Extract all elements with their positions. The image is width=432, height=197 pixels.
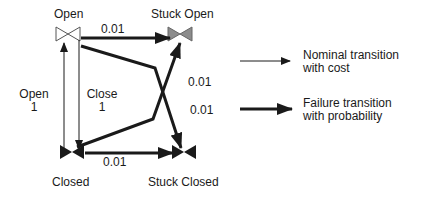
legend-failure-line2: with probability xyxy=(303,110,392,123)
state-label-open: Open xyxy=(54,8,83,21)
cost-open-to-closed-value: 1 xyxy=(84,101,120,114)
legend-nominal-line2: with cost xyxy=(303,62,399,75)
cost-closed-to-open-label: Open 1 xyxy=(18,88,50,114)
valve-stuck-open-icon xyxy=(168,27,192,41)
prob-closed-to-stuck-open: 0.01 xyxy=(188,76,211,89)
legend-nominal-text: Nominal transition with cost xyxy=(303,49,399,75)
state-label-stuck-closed: Stuck Closed xyxy=(148,176,219,189)
cost-open-to-closed-label: Close 1 xyxy=(84,88,120,114)
prob-open-to-stuck-closed: 0.01 xyxy=(190,104,213,117)
state-label-closed: Closed xyxy=(52,176,89,189)
legend-failure-text: Failure transition with probability xyxy=(303,97,392,123)
valve-open-icon xyxy=(56,27,80,41)
valve-stuck-closed-icon xyxy=(172,145,196,159)
prob-closed-to-stuck-closed: 0.01 xyxy=(103,156,126,169)
cost-closed-to-open-value: 1 xyxy=(18,101,50,114)
prob-open-to-stuck-open: 0.01 xyxy=(101,23,124,36)
state-label-stuck-open: Stuck Open xyxy=(151,8,214,21)
